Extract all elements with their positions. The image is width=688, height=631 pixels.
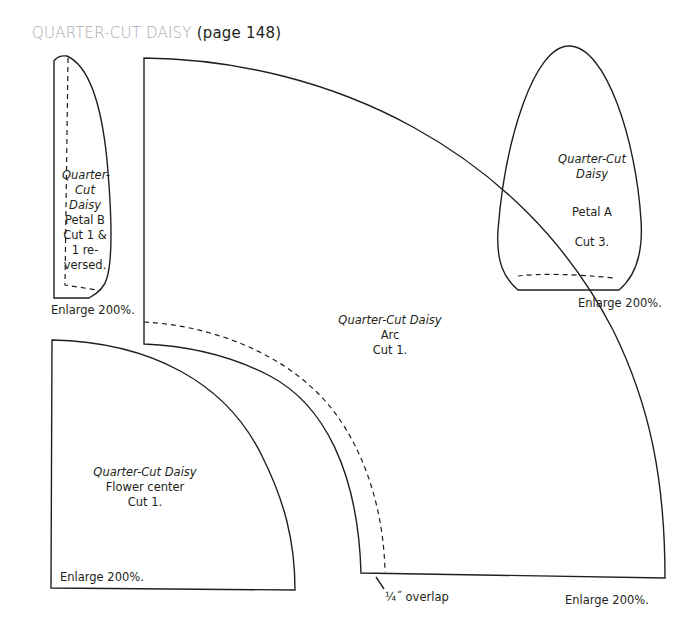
- flower-center-label: Quarter-Cut Daisy Flower center Cut 1.: [85, 465, 205, 510]
- arc-label: Quarter-Cut Daisy Arc Cut 1.: [330, 313, 450, 358]
- overlap-pointer-line: [376, 577, 384, 589]
- overlap-note: ¼˝ overlap: [385, 590, 449, 604]
- petal-a-cut: Cut 3.: [550, 235, 634, 250]
- arc-overlap-line: [144, 322, 385, 572]
- arc-enlarge-note: Enlarge 200%.: [565, 593, 649, 607]
- petal-a-piece: Petal A: [550, 205, 634, 220]
- petal-a-enlarge-note: Enlarge 200%.: [578, 296, 662, 310]
- petal-b-enlarge-note: Enlarge 200%.: [51, 303, 135, 317]
- petal-a-label: Quarter-Cut Daisy: [550, 152, 634, 182]
- petal-b-label: Quarter- Cut Daisy Petal B Cut 1 & 1 re-…: [62, 168, 108, 273]
- petal-a-seam: [518, 274, 615, 278]
- flower-center-enlarge-note: Enlarge 200%.: [60, 570, 144, 584]
